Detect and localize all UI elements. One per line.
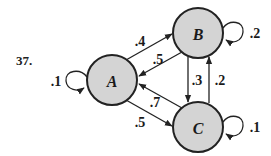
label-c-to-b: .2 [215,73,226,88]
self-loop-b [223,22,243,42]
node-c-label: C [193,120,204,137]
label-b-to-b: .2 [250,26,261,41]
self-loop-c [223,116,243,136]
node-b: B [173,8,223,58]
node-a-label: A [106,73,118,90]
edge-a-to-b [126,34,172,60]
node-a: A [87,55,137,105]
node-b-label: B [192,26,204,43]
label-a-to-b: .4 [135,34,146,49]
edge-c-to-a [139,84,182,108]
label-b-to-a: .5 [153,52,164,67]
problem-number: 37. [16,53,32,68]
node-c: C [173,102,223,152]
label-b-to-c: .3 [192,73,203,88]
label-a-to-a: .1 [51,74,62,89]
self-loop-a [66,71,87,90]
label-a-to-c: .5 [135,115,146,130]
markov-chain-diagram: 37. A B C .1 .4 .5 .2 . [0,0,271,156]
label-c-to-c: .1 [250,120,261,135]
label-c-to-a: .7 [150,95,161,110]
